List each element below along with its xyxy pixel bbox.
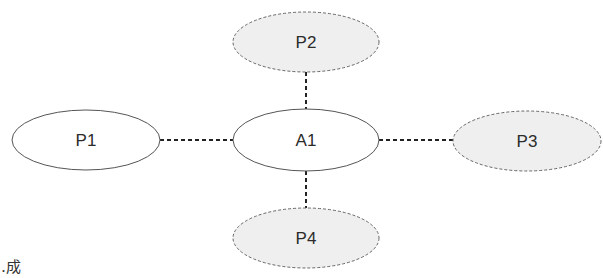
node-p1: P1 — [12, 110, 160, 170]
caption-fragment: …成 — [0, 255, 21, 276]
node-p1-label: P1 — [76, 131, 97, 150]
node-p4-label: P4 — [296, 229, 317, 248]
node-p2-label: P2 — [296, 33, 317, 52]
node-p4: P4 — [233, 208, 379, 268]
node-p3-label: P3 — [517, 132, 538, 151]
node-p2: P2 — [233, 12, 379, 72]
relationship-diagram: P1 A1 P2 P3 P4 — [0, 0, 603, 278]
node-a1-label: A1 — [296, 131, 317, 150]
node-p3: P3 — [453, 111, 601, 171]
node-a1: A1 — [233, 109, 379, 171]
